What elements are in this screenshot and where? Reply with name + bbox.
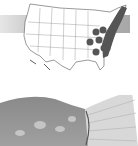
us-range-map [0,0,138,73]
fish-photo [0,95,138,146]
fish-body [0,97,90,146]
tail-fin [85,95,138,146]
